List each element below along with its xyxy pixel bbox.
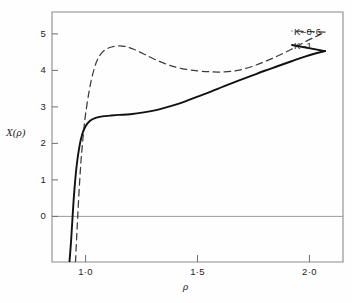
x-axis-title: ρ	[183, 280, 188, 292]
x-axis-ticks	[86, 255, 310, 262]
series-label-k-0-6: K–0·6	[294, 26, 321, 37]
y-axis-ticks	[52, 34, 58, 216]
y-tick-label: 0	[30, 210, 46, 221]
chart-figure: 012345 1·01·52·0 X(ρ) ρ K–0·6 K–1	[0, 0, 352, 303]
x-tick-label: 1·5	[183, 266, 213, 277]
series-label-k-1: K–1	[294, 40, 312, 51]
x-tick-label: 2·0	[294, 266, 324, 277]
series-curve-k-1	[69, 51, 325, 262]
y-tick-label: 5	[30, 28, 46, 39]
y-tick-label: 2	[30, 137, 46, 148]
y-axis-title: X(ρ)	[6, 126, 25, 138]
y-tick-label: 1	[30, 174, 46, 185]
y-tick-label: 4	[30, 64, 46, 75]
y-tick-label: 3	[30, 101, 46, 112]
x-tick-label: 1·0	[71, 266, 101, 277]
data-series-group	[69, 32, 325, 262]
series-curve-k-0-6	[76, 32, 326, 262]
